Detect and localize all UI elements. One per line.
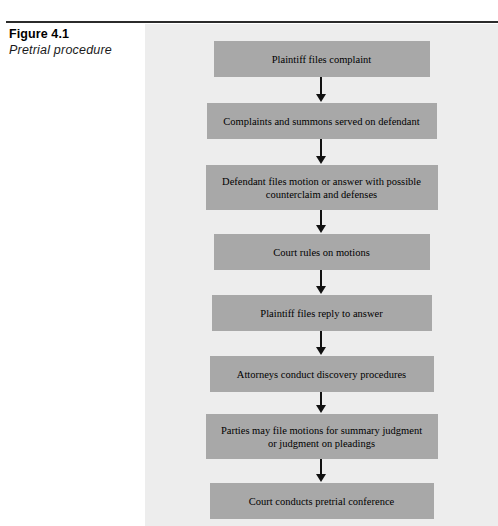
flow-arrow-down-icon — [313, 210, 329, 234]
arrow-head — [316, 347, 326, 355]
arrow-shaft — [320, 459, 322, 475]
arrow-head — [316, 474, 326, 482]
flow-node-label: Defendant files motion or answer with po… — [212, 175, 432, 201]
flow-node-label: Complaints and summons served on defenda… — [213, 115, 431, 128]
figure-caption: Figure 4.1 Pretrial procedure — [9, 27, 139, 58]
flow-node-line: Plaintiff files complaint — [220, 53, 424, 66]
flow-node-line: Court conducts pretrial conference — [216, 495, 428, 508]
flow-node-line: Defendant files motion or answer with po… — [212, 175, 432, 188]
flow-node-label: Plaintiff files reply to answer — [218, 307, 426, 320]
flow-step-row: Plaintiff files reply to answer — [145, 295, 498, 331]
flow-step-row: Parties may file motions for summary jud… — [145, 414, 498, 459]
flow-step-row: Court conducts pretrial conference — [145, 483, 498, 519]
flow-node-step-6: Attorneys conduct discovery procedures — [210, 356, 434, 392]
flow-node-step-5: Plaintiff files reply to answer — [212, 295, 432, 331]
arrow-head — [316, 225, 326, 233]
pretrial-procedure-flowchart: Plaintiff files complaintComplaints and … — [145, 24, 498, 526]
arrow-head — [316, 156, 326, 164]
flow-node-step-2: Complaints and summons served on defenda… — [207, 103, 437, 139]
arrow-shaft — [320, 270, 322, 287]
arrow-head — [316, 286, 326, 294]
flow-node-line: counterclaim and defenses — [212, 188, 432, 201]
flow-arrow-down-icon — [313, 77, 329, 103]
flow-arrow-down-icon — [313, 331, 329, 356]
arrow-shaft — [320, 331, 322, 348]
flow-step-row: Plaintiff files complaint — [145, 41, 498, 77]
flow-node-line: Plaintiff files reply to answer — [218, 307, 426, 320]
flow-node-step-3: Defendant files motion or answer with po… — [206, 165, 438, 210]
flow-node-step-4: Court rules on motions — [214, 234, 430, 270]
flow-node-line: Court rules on motions — [220, 246, 424, 259]
flow-node-step-1: Plaintiff files complaint — [214, 41, 430, 77]
arrow-shaft — [320, 77, 322, 95]
figure-number: Figure 4.1 — [9, 27, 139, 42]
flow-step-row: Court rules on motions — [145, 234, 498, 270]
figure-title: Pretrial procedure — [9, 42, 139, 58]
flow-node-label: Court rules on motions — [220, 246, 424, 259]
flow-node-label: Attorneys conduct discovery procedures — [216, 368, 428, 381]
flow-node-step-7: Parties may file motions for summary jud… — [206, 414, 438, 459]
arrow-shaft — [320, 139, 322, 157]
arrow-shaft — [320, 392, 322, 406]
flow-arrow-down-icon — [313, 139, 329, 165]
flow-step-row: Defendant files motion or answer with po… — [145, 165, 498, 210]
flow-arrow-down-icon — [313, 270, 329, 295]
flow-node-step-8: Court conducts pretrial conference — [210, 483, 434, 519]
flow-node-line: or judgment on pleadings — [212, 437, 432, 450]
flow-node-line: Parties may file motions for summary jud… — [212, 424, 432, 437]
flow-node-label: Court conducts pretrial conference — [216, 495, 428, 508]
arrow-shaft — [320, 210, 322, 226]
flow-node-label: Parties may file motions for summary jud… — [212, 424, 432, 450]
arrow-head — [316, 94, 326, 102]
flow-step-row: Attorneys conduct discovery procedures — [145, 356, 498, 392]
flow-node-label: Plaintiff files complaint — [220, 53, 424, 66]
arrow-head — [316, 405, 326, 413]
flow-step-row: Complaints and summons served on defenda… — [145, 103, 498, 139]
header-rule — [6, 21, 498, 23]
flow-node-line: Attorneys conduct discovery procedures — [216, 368, 428, 381]
flow-node-line: Complaints and summons served on defenda… — [213, 115, 431, 128]
flow-arrow-down-icon — [313, 459, 329, 483]
flow-arrow-down-icon — [313, 392, 329, 414]
